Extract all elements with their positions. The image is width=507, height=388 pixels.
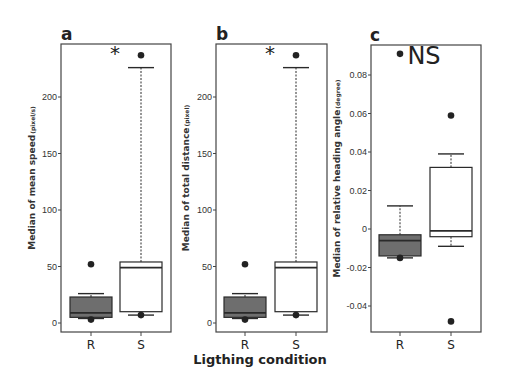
y-tick-label: 50 [202,262,212,272]
panel-c: c-0.04-0.0200.020.040.060.08Median of re… [332,25,481,352]
iqr-box [430,167,472,236]
outlier-point [293,52,300,59]
panel-letter: a [61,24,72,44]
significance-label: * [265,41,275,65]
outlier-point [242,261,249,268]
x-category-label: S [292,338,300,352]
y-tick-label: 0.06 [349,109,367,119]
x-axis-label: Ligthing condition [193,352,327,367]
iqr-box [70,297,112,317]
box-R [224,261,266,323]
outlier-point [138,312,145,319]
x-category-label: R [87,338,95,352]
outlier-point [397,255,404,262]
y-axis-label: Median of mean speed(pixel/s) [27,106,37,250]
y-tick-label: 100 [42,205,57,215]
y-tick-label: -0.02 [346,263,367,273]
y-tick-label: 0 [207,318,212,328]
box-S [430,112,472,325]
y-tick-label: 0 [52,318,57,328]
box-R [379,51,421,262]
x-category-label: R [241,338,249,352]
outlier-point [448,112,455,119]
y-tick-label: 0.02 [349,186,367,196]
box-S [275,52,317,319]
x-category-label: R [396,338,404,352]
y-tick-label: 50 [47,262,57,272]
y-axis-label: Median of relative heading angle(degree) [332,79,342,277]
iqr-box [224,297,266,317]
x-category-label: S [137,338,145,352]
y-tick-label: 150 [42,149,57,159]
iqr-box [379,235,421,256]
y-tick-label: 100 [197,205,212,215]
box-S [120,52,162,319]
iqr-box [120,262,162,312]
box-R [70,261,112,323]
boxplot-figure: a050100150200Median of mean speed(pixel/… [0,0,507,388]
panel-letter: c [370,25,380,45]
y-tick-label: 200 [197,92,212,102]
y-tick-label: 150 [197,149,212,159]
y-axis-label: Median of total distance(pixel) [181,105,191,252]
outlier-point [88,316,95,323]
outlier-point [293,312,300,319]
iqr-box [275,262,317,312]
outlier-point [138,52,145,59]
panel-letter: b [216,24,228,44]
x-category-label: S [447,338,455,352]
y-tick-label: 0.08 [349,70,367,80]
outlier-point [448,318,455,325]
panel-b: b050100150200Median of total distance(pi… [181,24,327,352]
outlier-point [242,316,249,323]
significance-label: * [110,41,120,65]
outlier-point [88,261,95,268]
y-tick-label: 0.04 [349,147,367,157]
significance-label: NS [407,42,440,70]
outlier-point [397,51,404,58]
y-tick-label: 0 [362,224,367,234]
panel-a: a050100150200Median of mean speed(pixel/… [27,24,171,352]
y-tick-label: 200 [42,92,57,102]
y-tick-label: -0.04 [346,301,367,311]
